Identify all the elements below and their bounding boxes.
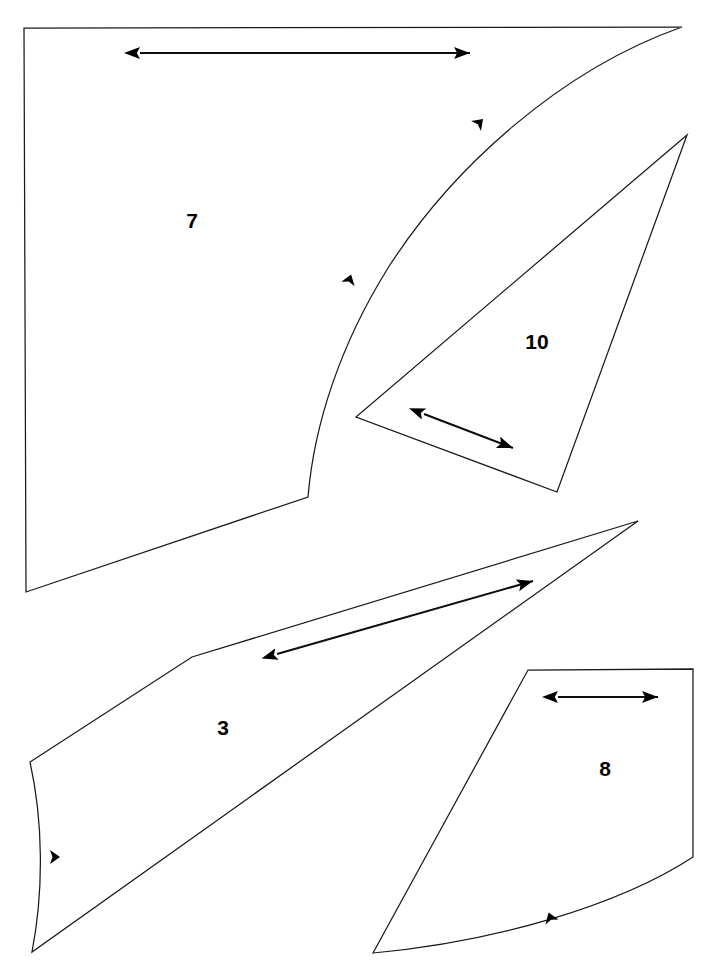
piece-3-label: 3 (217, 716, 229, 739)
piece-8-label: 8 (599, 757, 611, 780)
pattern-drawing: 7 10 3 8 (0, 0, 722, 977)
piece-8-outline[interactable] (373, 669, 693, 953)
piece-7-label: 7 (186, 209, 198, 232)
piece-10-label: 10 (525, 330, 548, 353)
pattern-sheet-canvas: 7 10 3 8 (0, 0, 722, 977)
pattern-piece-8[interactable]: 8 (373, 669, 693, 953)
